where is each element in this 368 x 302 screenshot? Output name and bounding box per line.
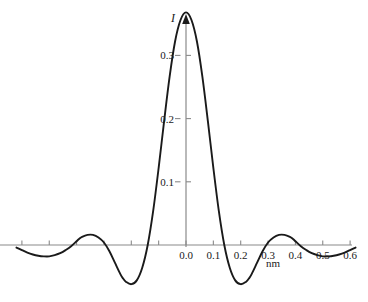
x-axis-tick-label: 0.6 (343, 250, 357, 261)
x-axis-ticks (22, 241, 350, 246)
x-axis-title: nm (266, 258, 280, 269)
y-axis-tick-label: 0.3 (146, 50, 174, 61)
x-axis-tick-label: 0.2 (234, 250, 248, 261)
x-axis-tick-label: 0.1 (206, 250, 220, 261)
y-axis-ticks (175, 55, 191, 181)
y-axis-title: I (171, 12, 175, 24)
intensity-plot-figure: 0.00.10.20.30.40.50.6 0.10.20.3 I nm (0, 0, 368, 302)
axes-group (0, 14, 352, 247)
x-axis-tick-label: 0.0 (179, 250, 193, 261)
y-axis-tick-label: 0.1 (146, 176, 174, 187)
x-axis-tick-label: 0.5 (316, 250, 330, 261)
x-axis-tick-label: 0.4 (289, 250, 303, 261)
y-axis-tick-label: 0.2 (146, 113, 174, 124)
